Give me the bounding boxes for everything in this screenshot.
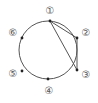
point-6: [21, 37, 24, 40]
point-4: [47, 78, 50, 81]
chords: [50, 21, 77, 70]
point-2: [76, 37, 79, 40]
point-label-3: ③: [80, 69, 92, 81]
point-label-6: ⑥: [7, 27, 19, 39]
main-circle: [19, 21, 77, 79]
chord-1-3: [50, 21, 77, 70]
point-label-5: ⑤: [7, 68, 19, 80]
point-3: [76, 69, 79, 72]
chord-1-2: [50, 21, 77, 38]
point-1: [49, 20, 52, 23]
point-label-1: ①: [44, 5, 56, 17]
point-5: [21, 70, 24, 73]
point-label-4: ④: [43, 85, 55, 97]
points: [21, 20, 79, 81]
point-label-2: ②: [80, 27, 92, 39]
